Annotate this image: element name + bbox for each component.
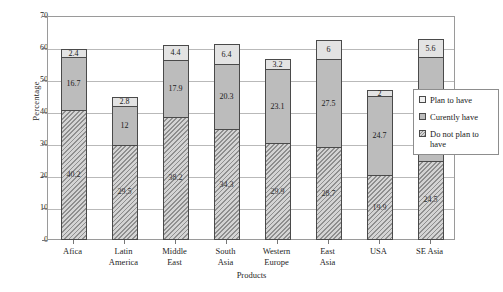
x-tick-mark [328,240,329,244]
legend-item-currently-have: Curently have [419,112,494,122]
bar-segment[interactable]: 19.9 [367,175,393,240]
bar-value-label: 24.5 [424,196,438,204]
bars-layer: 40.216.72.429.5122.838.217.94.434.320.36… [48,17,454,239]
bar-value-label: 27.5 [322,100,336,108]
bar-value-label: 29.9 [271,188,285,196]
bar-segment[interactable]: 6 [316,40,342,60]
bar-segment[interactable]: 2.4 [61,49,87,58]
y-tick-mark [42,240,47,241]
y-axis-title: Percentage [31,61,41,141]
legend-swatch-icon [419,130,426,137]
x-tick-mark [226,240,227,244]
bar-segment[interactable]: 23.1 [265,69,291,144]
bar-value-label: 40.2 [67,171,81,179]
x-tick-label-line: Asia [297,257,359,268]
plot-area: 40.216.72.429.5122.838.217.94.434.320.36… [47,16,455,240]
bar-group[interactable]: 19.924.72 [367,90,393,239]
bar-segment[interactable]: 3.2 [265,59,291,70]
bar-value-label: 20.3 [220,93,234,101]
bar-value-label: 28.7 [322,190,336,198]
bar-segment[interactable]: 27.5 [316,59,342,148]
x-tick-mark [175,240,176,244]
legend-item-do-not-plan-to-have: Do not plan to have [419,129,494,149]
bar-value-label: 19.9 [373,204,387,212]
x-axis-title: Products [0,270,503,280]
bar-segment[interactable]: 4.4 [163,45,189,60]
bar-value-label: 24.7 [373,132,387,140]
legend-label: Plan to have [430,95,472,105]
bar-segment[interactable]: 28.7 [316,147,342,240]
bar-value-label: 2.4 [69,50,79,58]
bar-group[interactable]: 29.5122.8 [112,97,138,239]
bar-value-label: 16.7 [67,80,81,88]
stacked-bar-chart: Percentage 010203040506070 40.216.72.429… [0,0,503,292]
x-tick-mark [379,240,380,244]
bar-group[interactable]: 40.216.72.4 [61,49,87,239]
bar-value-label: 34.3 [220,181,234,189]
bar-segment[interactable]: 16.7 [61,57,87,111]
legend-swatch-icon [419,113,426,120]
bar-group[interactable]: 34.320.36.4 [214,44,240,239]
x-tick-mark [277,240,278,244]
legend-label: Curently have [430,112,478,122]
bar-value-label: 4.4 [171,49,181,57]
bar-segment[interactable]: 34.3 [214,129,240,240]
bar-segment[interactable]: 29.9 [265,143,291,240]
x-tick-label: SE Asia [399,246,461,257]
bar-segment[interactable]: 20.3 [214,64,240,130]
bar-value-label: 12 [121,122,129,130]
bar-value-label: 6 [327,46,331,54]
bar-segment[interactable]: 24.7 [367,96,393,176]
bar-segment[interactable]: 6.4 [214,44,240,65]
bar-segment[interactable]: 17.9 [163,60,189,118]
bar-value-label: 23.1 [271,103,285,111]
bar-value-label: 17.9 [169,85,183,93]
legend-item-plan-to-have: Plan to have [419,95,494,105]
x-tick-mark [124,240,125,244]
x-tick-mark [430,240,431,244]
bar-value-label: 2.8 [120,98,130,106]
legend-swatch-icon [419,96,426,103]
bar-value-label: 5.6 [426,45,436,53]
legend-label: Do not plan to have [430,129,494,149]
bar-segment[interactable]: 2 [367,90,393,97]
bar-group[interactable]: 28.727.56 [316,40,342,239]
bar-value-label: 38.2 [169,174,183,182]
bar-value-label: 3.2 [273,61,283,69]
bar-segment[interactable]: 40.2 [61,110,87,240]
bar-value-label: 29.5 [118,188,132,196]
bar-group[interactable]: 29.923.13.2 [265,59,291,239]
bar-segment[interactable]: 24.5 [418,161,444,240]
x-tick-mark [73,240,74,244]
bar-segment[interactable]: 29.5 [112,145,138,240]
bar-value-label: 6.4 [222,51,232,59]
bar-segment[interactable]: 12 [112,106,138,145]
bar-segment[interactable]: 5.6 [418,39,444,58]
bar-segment[interactable]: 2.8 [112,97,138,107]
legend: Plan to have Curently have Do not plan t… [413,89,499,155]
bar-group[interactable]: 38.217.94.4 [163,45,189,239]
bar-segment[interactable]: 38.2 [163,117,189,240]
bar-value-label: 2 [378,90,382,98]
